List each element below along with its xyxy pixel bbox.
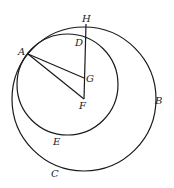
inner-circle: [17, 34, 118, 135]
segment-HF: [84, 24, 86, 99]
label-G: G: [86, 73, 94, 84]
label-D: D: [74, 37, 83, 48]
label-C: C: [51, 168, 59, 179]
segment-AG: [28, 54, 84, 78]
diagram-canvas: H D A G F B E C: [0, 0, 174, 188]
label-F: F: [78, 100, 87, 111]
label-E: E: [52, 136, 61, 147]
geometry-diagram: H D A G F B E C: [0, 0, 174, 188]
segment-AF: [28, 54, 84, 99]
label-H: H: [81, 13, 91, 24]
label-B: B: [154, 95, 162, 106]
label-A: A: [17, 46, 25, 57]
